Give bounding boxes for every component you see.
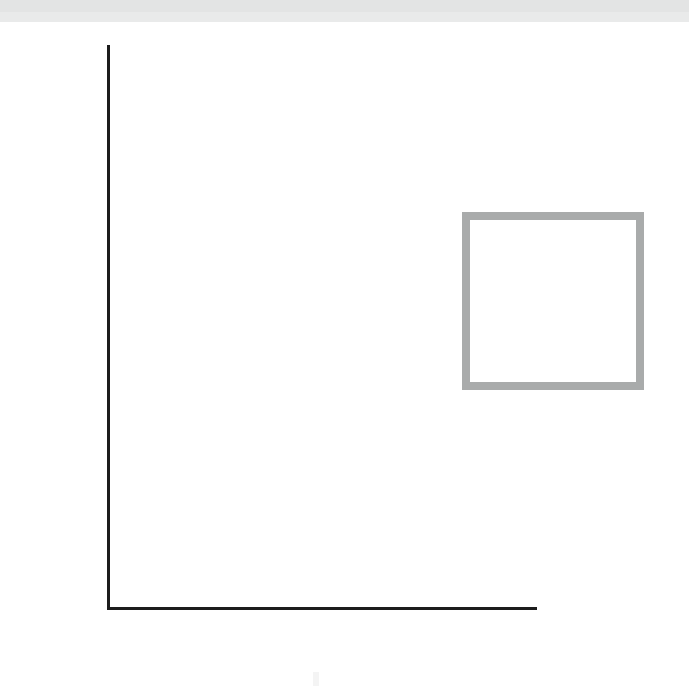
x-axis-line — [107, 607, 537, 610]
y-axis-line — [107, 45, 110, 610]
callout-box — [462, 212, 644, 390]
chart-page — [0, 0, 689, 690]
scan-top-band-highlight — [0, 0, 689, 12]
scan-top-band — [0, 0, 689, 22]
scan-footer-artifact — [313, 672, 319, 686]
